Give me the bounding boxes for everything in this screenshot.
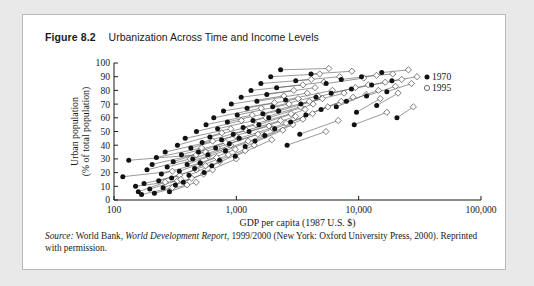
- source-label: Source:: [45, 231, 74, 241]
- data-point-1970: [247, 129, 252, 134]
- data-point-1970: [150, 162, 155, 167]
- data-connector-lines: [123, 68, 417, 194]
- data-point-1970: [190, 156, 195, 161]
- data-point-1995: [169, 168, 175, 174]
- data-point-1970: [194, 129, 199, 134]
- data-point-1970: [374, 103, 379, 108]
- data-point-1970: [147, 187, 152, 192]
- data-point-1970: [231, 132, 236, 137]
- country-connector: [397, 107, 413, 118]
- y-axis-tick-label: 30: [100, 153, 110, 164]
- country-connector: [354, 112, 387, 124]
- data-point-1995: [373, 72, 379, 78]
- data-point-1970: [329, 91, 334, 96]
- data-point-1970: [185, 162, 190, 167]
- data-point-1995: [312, 85, 318, 91]
- data-point-1995: [202, 163, 208, 169]
- y-axis-tick-label: 100: [96, 57, 111, 68]
- data-point-1995: [291, 87, 297, 93]
- country-connector: [287, 132, 326, 146]
- data-point-1995: [349, 68, 355, 74]
- data-point-1970: [270, 104, 275, 109]
- y-axis-tick-label: 50: [100, 126, 110, 137]
- data-point-1970: [215, 126, 220, 131]
- data-point-1970: [369, 82, 374, 87]
- data-point-1970: [139, 192, 144, 197]
- data-point-1995: [382, 79, 388, 85]
- data-point-1970: [209, 163, 214, 168]
- data-point-1970: [256, 122, 261, 127]
- data-point-1970: [389, 78, 394, 83]
- data-point-1970: [126, 158, 131, 163]
- data-point-1970: [245, 106, 250, 111]
- data-point-1970: [319, 107, 324, 112]
- data-point-1995: [245, 138, 251, 144]
- data-point-1970: [285, 143, 290, 148]
- data-point-1970: [186, 173, 191, 178]
- data-point-1970: [217, 158, 222, 163]
- data-point-1970: [181, 180, 186, 185]
- data-point-1970: [223, 148, 228, 153]
- y-axis-tick-label: 80: [100, 85, 110, 96]
- data-point-1970: [339, 77, 344, 82]
- data-point-1970: [177, 169, 182, 174]
- data-point-1970: [254, 99, 259, 104]
- data-point-1970: [352, 122, 357, 127]
- data-point-1970: [394, 115, 399, 120]
- data-points: [120, 65, 420, 197]
- data-point-1995: [326, 65, 332, 71]
- data-point-1970: [163, 150, 168, 155]
- data-point-1995: [295, 96, 301, 102]
- data-point-1995: [350, 94, 356, 100]
- data-point-1970: [175, 143, 180, 148]
- data-point-1970: [237, 136, 242, 141]
- data-point-1995: [300, 82, 306, 88]
- y-axis-tick-label: 10: [100, 181, 110, 192]
- data-point-1970: [384, 89, 389, 94]
- data-point-1970: [324, 81, 329, 86]
- data-point-1995: [405, 67, 411, 73]
- data-point-1970: [161, 185, 166, 190]
- data-point-1970: [196, 150, 201, 155]
- data-point-1970: [278, 67, 283, 72]
- data-point-1970: [314, 95, 319, 100]
- data-point-1970: [156, 178, 161, 183]
- data-point-1970: [169, 176, 174, 181]
- x-axis-tick-label: 100,000: [465, 204, 496, 215]
- country-connector: [382, 70, 409, 73]
- country-connector: [300, 121, 338, 135]
- data-point-1970: [243, 144, 248, 149]
- data-point-1970: [258, 81, 263, 86]
- data-point-1970: [272, 126, 277, 131]
- data-point-1970: [229, 102, 234, 107]
- y-axis-tick-label: 60: [100, 112, 110, 123]
- x-axis-title: GDP per capita (1987 U.S. $): [240, 217, 356, 229]
- x-axis-tick-label: 10,000: [345, 204, 372, 215]
- data-point-1970: [359, 74, 364, 79]
- data-point-1970: [364, 93, 369, 98]
- data-point-1970: [262, 133, 267, 138]
- data-point-1995: [408, 80, 414, 86]
- y-axis-tick-label: 40: [100, 140, 110, 151]
- data-point-1995: [338, 98, 344, 104]
- data-point-1970: [264, 92, 269, 97]
- data-point-1970: [211, 115, 216, 120]
- data-point-1970: [188, 145, 193, 150]
- data-point-1970: [120, 174, 125, 179]
- data-point-1995: [317, 71, 323, 77]
- data-point-1970: [276, 108, 281, 113]
- data-point-1970: [205, 152, 210, 157]
- data-point-1970: [354, 110, 359, 115]
- data-point-1970: [298, 102, 303, 107]
- data-point-1995: [414, 74, 420, 80]
- data-point-1970: [219, 137, 224, 142]
- data-point-1970: [198, 161, 203, 166]
- x-axis-tick-label: 100: [107, 204, 122, 215]
- data-point-1970: [266, 115, 271, 120]
- source-text-1: World Bank,: [74, 231, 126, 241]
- data-point-1970: [171, 159, 176, 164]
- data-point-1995: [335, 117, 341, 123]
- data-point-1970: [252, 139, 257, 144]
- data-point-1995: [395, 90, 401, 96]
- data-point-1995: [377, 96, 383, 102]
